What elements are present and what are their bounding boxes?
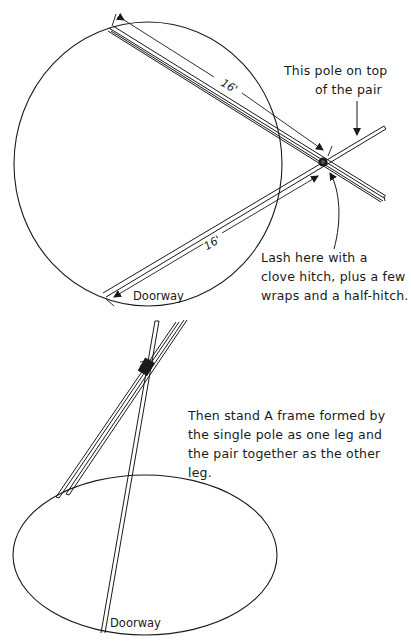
pole-pair <box>108 26 386 202</box>
ground-ellipse-bottom <box>13 475 277 635</box>
ground-circle-top <box>14 22 282 306</box>
doorway-label-bottom: Doorway <box>110 616 161 630</box>
callout-top-line1: This pole on top <box>283 63 387 78</box>
raised-view: Then stand A frame formed by the single … <box>13 320 386 635</box>
instruction-line1: Then stand A frame formed by <box>187 408 386 423</box>
callout-lash-line2: clove hitch, plus a few <box>261 269 405 284</box>
instruction-line2: the single pole as one leg and <box>188 427 382 442</box>
instruction-line3: the pair together as the other <box>188 446 381 461</box>
top-view: 16' 16' This pole on top of the pair Las… <box>14 14 409 306</box>
callout-lash-arrow <box>330 173 339 249</box>
a-frame-pair-leg <box>56 320 187 498</box>
tipi-lashing-diagram: 16' 16' This pole on top of the pair Las… <box>0 0 411 642</box>
callout-lash-line3: wraps and a half-hitch. <box>261 288 409 303</box>
instruction-line4: leg. <box>188 465 212 480</box>
callout-lash-line1: Lash here with a <box>261 250 368 265</box>
doorway-label-top: Doorway <box>133 289 184 303</box>
callout-top-line2: of the pair <box>315 82 383 97</box>
dimension-single-label: 16' <box>202 233 223 253</box>
lashing-knot-top <box>319 158 328 167</box>
